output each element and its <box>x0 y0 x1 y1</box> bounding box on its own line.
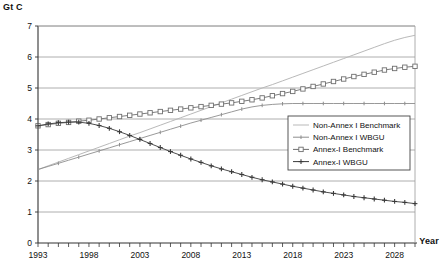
x-tick-label: 1998 <box>79 250 98 260</box>
x-tick-label: 2003 <box>130 250 149 260</box>
legend-label: Annex-I WBGU <box>313 158 368 167</box>
y-tick-label: 3 <box>27 145 32 155</box>
x-tick-label: 2028 <box>385 250 404 260</box>
x-tick-label: 2018 <box>283 250 302 260</box>
x-tick-label: 1993 <box>29 250 48 260</box>
x-tick-label: 2013 <box>232 250 251 260</box>
x-tick-label: 2008 <box>181 250 200 260</box>
line-chart-plot: 01234567 1993199820032008201320182023202… <box>0 0 441 271</box>
x-axis-ticks-group: 19931998200320082013201820232028 <box>29 243 415 260</box>
legend-label: Annex-I Benchmark <box>313 145 384 154</box>
chart-container: Gt C Year 01234567 199319982003200820132… <box>0 0 441 271</box>
x-tick-label: 2023 <box>334 250 353 260</box>
y-tick-label: 7 <box>27 21 32 31</box>
y-tick-label: 0 <box>27 238 32 248</box>
y-tick-label: 2 <box>27 176 32 186</box>
y-axis-ticks-group: 01234567 <box>27 21 38 248</box>
y-tick-label: 6 <box>27 52 32 62</box>
y-tick-label: 1 <box>27 207 32 217</box>
y-tick-label: 5 <box>27 83 32 93</box>
y-tick-label: 4 <box>27 114 32 124</box>
chart-legend: Non-Annex I BenchmarkNon-Annex I WBGUAnn… <box>288 116 410 170</box>
legend-label: Non-Annex I WBGU <box>313 133 385 142</box>
legend-label: Non-Annex I Benchmark <box>313 121 401 130</box>
